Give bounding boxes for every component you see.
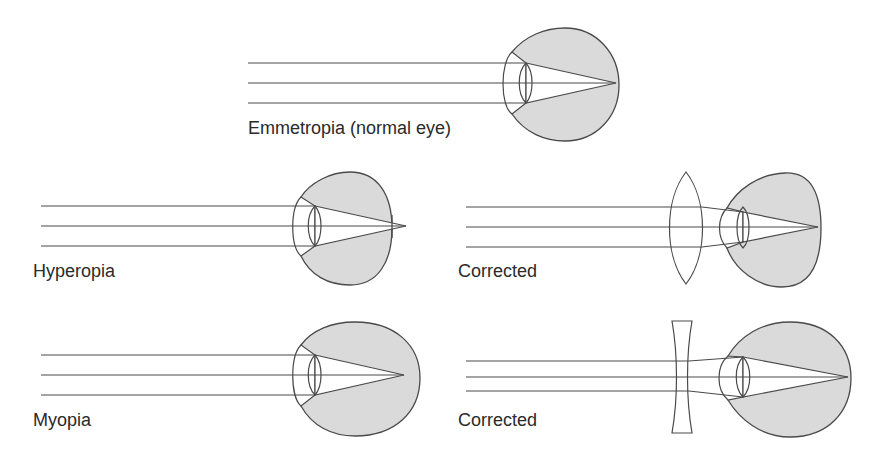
label-corrected-myopia: Corrected — [458, 410, 537, 430]
panel-hyperopia: Hyperopia — [33, 172, 406, 285]
eye-refraction-diagram: Emmetropia (normal eye) Hyperopia Correc… — [0, 0, 879, 453]
panel-myopia: Myopia — [33, 322, 420, 436]
panel-hyperopia-corrected: Corrected — [458, 172, 821, 287]
label-emmetropia: Emmetropia (normal eye) — [248, 118, 451, 138]
panel-myopia-corrected: Corrected — [458, 321, 851, 437]
label-myopia: Myopia — [33, 410, 92, 430]
convex-corrective-lens — [670, 172, 703, 284]
label-hyperopia: Hyperopia — [33, 261, 116, 281]
panel-emmetropia: Emmetropia (normal eye) — [248, 28, 619, 141]
label-corrected-hyperopia: Corrected — [458, 261, 537, 281]
